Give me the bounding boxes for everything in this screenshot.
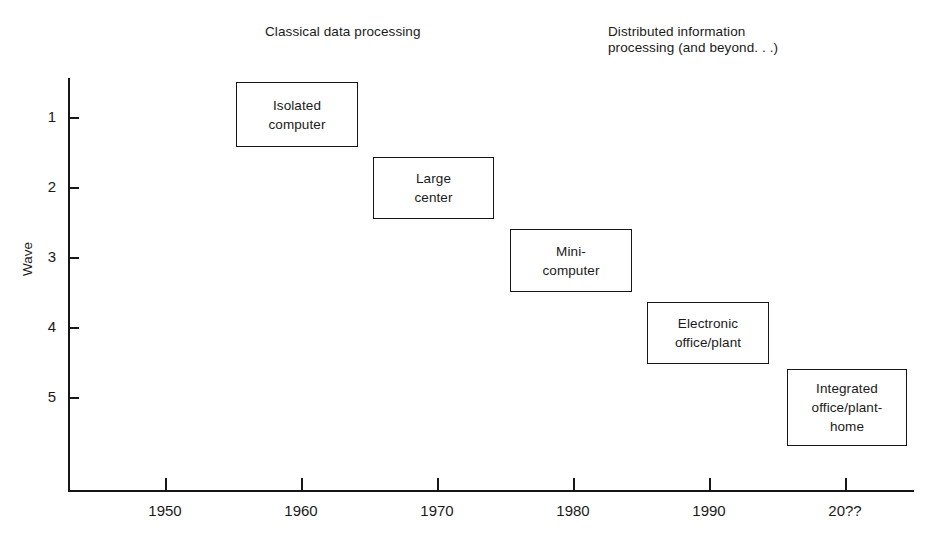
y-tick-mark bbox=[70, 187, 79, 189]
y-tick-4: 4 bbox=[0, 327, 68, 329]
x-tick-mark bbox=[437, 478, 439, 490]
section-header-classical: Classical data processing bbox=[265, 24, 421, 40]
y-axis-title: Wave bbox=[21, 237, 35, 281]
x-tick-mark bbox=[573, 478, 575, 490]
x-tick-label: 1950 bbox=[125, 502, 205, 519]
y-tick-5: 5 bbox=[0, 397, 68, 399]
section-header-distributed: Distributed information processing (and … bbox=[608, 24, 778, 56]
x-tick-mark bbox=[165, 478, 167, 490]
y-tick-mark bbox=[70, 327, 79, 329]
y-tick-label: 4 bbox=[34, 319, 56, 334]
y-tick-mark bbox=[70, 397, 79, 399]
y-axis-line bbox=[68, 78, 70, 492]
x-tick-label: 1990 bbox=[669, 502, 749, 519]
x-axis-line bbox=[68, 490, 914, 492]
y-tick-3: 3 bbox=[0, 257, 68, 259]
y-tick-label: 3 bbox=[34, 249, 56, 264]
y-tick-mark bbox=[70, 117, 79, 119]
wave-box-5: Integrated office/plant- home bbox=[787, 369, 907, 446]
x-tick-mark bbox=[301, 478, 303, 490]
y-tick-label: 1 bbox=[34, 109, 56, 124]
wave-box-2: Large center bbox=[373, 157, 494, 219]
x-tick-label: 1960 bbox=[261, 502, 341, 519]
y-tick-label: 2 bbox=[34, 179, 56, 194]
x-tick-mark bbox=[709, 478, 711, 490]
y-tick-1: 1 bbox=[0, 117, 68, 119]
wave-box-4: Electronic office/plant bbox=[647, 302, 769, 364]
y-tick-label: 5 bbox=[34, 389, 56, 404]
x-tick-label: 1970 bbox=[397, 502, 477, 519]
y-tick-mark bbox=[70, 257, 79, 259]
wave-box-3: Mini- computer bbox=[510, 229, 632, 292]
x-tick-label: 1980 bbox=[533, 502, 613, 519]
y-tick-2: 2 bbox=[0, 187, 68, 189]
wave-box-1: Isolated computer bbox=[236, 82, 358, 147]
x-tick-label: 20?? bbox=[805, 502, 885, 519]
x-tick-mark bbox=[845, 478, 847, 490]
figure-canvas: Classical data processing Distributed in… bbox=[0, 0, 944, 559]
